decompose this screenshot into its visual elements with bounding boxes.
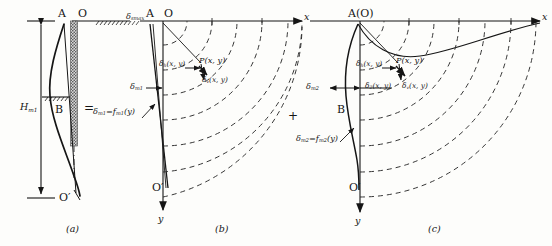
panel-c-horizontal-vector-label: δh(x, y) xyxy=(356,60,382,69)
panel-a-point-A: A xyxy=(58,8,66,19)
panel-a-height-label: Hm1 xyxy=(20,102,38,114)
panel-c-vertical-vector-label: δv(x, y) xyxy=(402,82,428,91)
panel-c-formula: δm2=fm2(y) xyxy=(296,134,338,144)
panel-c-axis-y: y xyxy=(355,216,360,226)
panel-c-point-P: P(x, y) xyxy=(396,56,422,64)
figure-canvas xyxy=(0,0,552,246)
panel-a-caption: (a) xyxy=(66,224,79,234)
panel-c-wall-disp-label: δm2 xyxy=(306,82,319,92)
panel-c-point-B: B xyxy=(337,104,345,115)
panel-b-point-P: P(x, y) xyxy=(199,56,225,64)
panel-b-axis-y: y xyxy=(158,214,163,224)
panel-b-point-O-prime: O′ xyxy=(152,182,164,193)
panel-b-wall-disp-label: δm1 xyxy=(130,82,143,92)
panel-b-vertical-vector-label: δv(x, y) xyxy=(202,76,228,85)
panel-c-axis-x: x xyxy=(542,12,547,22)
panel-c-point-A: A(O) xyxy=(348,8,374,19)
panel-a-point-B: B xyxy=(55,104,63,115)
panel-c-caption: (c) xyxy=(428,224,441,234)
panel-b-horizontal-vector-label: δh(x, y) xyxy=(159,60,185,69)
panel-a-formula: δm1=fm1(y) xyxy=(93,107,135,117)
figure-root: A O O′ B Hm1 = δm1=fm1(y) (a) δsmax A O … xyxy=(0,0,552,246)
operator-plus: + xyxy=(288,110,298,122)
panel-b-caption: (b) xyxy=(215,224,229,234)
panel-a-point-O: O xyxy=(78,8,87,19)
panel-b-surface-settlement-label: δsmax xyxy=(126,12,144,22)
panel-a-point-O-prime: O′ xyxy=(59,192,71,203)
panel-c-point-O-prime: O′ xyxy=(349,182,361,193)
panel-b-point-A: A xyxy=(146,8,154,19)
panel-c-resultant-vector-label: δ2(x, y) xyxy=(365,82,391,91)
panel-b-axis-x: x xyxy=(304,12,309,22)
panel-b-point-O: O xyxy=(164,8,173,19)
